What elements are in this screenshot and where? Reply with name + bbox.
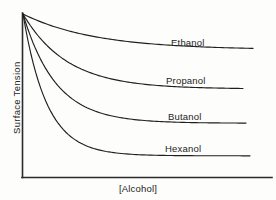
curve-propanol [23,14,243,88]
curve-label-butanol: Butanol [168,112,202,122]
curve-ethanol [23,14,253,48]
curve-label-ethanol: Ethanol [171,38,205,48]
curve-label-hexanol: Hexanol [165,144,201,154]
curve-butanol [23,14,246,123]
y-axis-label: Surface Tension [12,48,22,148]
surface-tension-chart: Ethanol Propanol Butanol Hexanol Surface… [0,0,276,200]
x-axis-label: [Alcohol] [0,184,276,194]
plot-area [0,0,276,200]
curve-label-propanol: Propanol [166,76,206,86]
